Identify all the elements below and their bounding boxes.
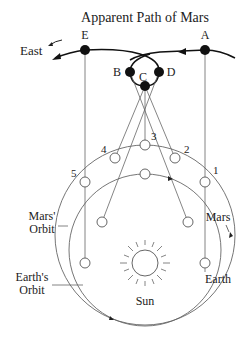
mars-pos-3: 3 <box>151 130 157 142</box>
earth-orbit-label-2: Orbit <box>19 283 45 297</box>
east-label: East <box>20 43 43 58</box>
mars-pos-2: 2 <box>184 143 190 155</box>
point-d <box>154 67 164 77</box>
apparent-position-dots <box>80 45 210 91</box>
label-d: D <box>167 65 176 79</box>
earth-orbit-arrow-bottom-icon <box>109 316 114 320</box>
label-a: A <box>201 28 210 42</box>
label-b: B <box>113 65 121 79</box>
diagram-title: Apparent Path of Mars <box>81 10 209 25</box>
label-c: C <box>139 70 147 84</box>
point-a <box>200 45 210 55</box>
label-e: E <box>81 28 88 42</box>
mars-pos-4: 4 <box>101 143 107 155</box>
mars-pos-5: 5 <box>71 167 77 179</box>
mars-pos-1: 1 <box>213 164 219 176</box>
mars-label: Mars <box>206 210 231 224</box>
point-b <box>125 67 135 77</box>
mars-orbit-arrow-icon <box>229 232 233 238</box>
retrograde-loop <box>85 50 159 87</box>
east-arrowhead-icon <box>52 53 61 60</box>
mars-retrograde-diagram: Apparent Path of Mars East E A B C D <box>0 0 248 362</box>
sun-label: Sun <box>136 294 155 308</box>
sun-icon <box>120 240 170 286</box>
path-direction-arrow-icon <box>178 48 186 55</box>
mars-position-circles <box>80 140 210 187</box>
earth-orbit-label-1: Earth's <box>16 270 49 284</box>
earth-label: Earth <box>205 272 231 286</box>
mars-orbit-label-2: Orbit <box>29 222 55 236</box>
mars-leader-arrow <box>226 225 229 232</box>
point-e <box>80 45 90 55</box>
mars-orbit-label-1: Mars' <box>29 209 56 223</box>
east-hint-arrowhead-icon <box>48 42 53 46</box>
